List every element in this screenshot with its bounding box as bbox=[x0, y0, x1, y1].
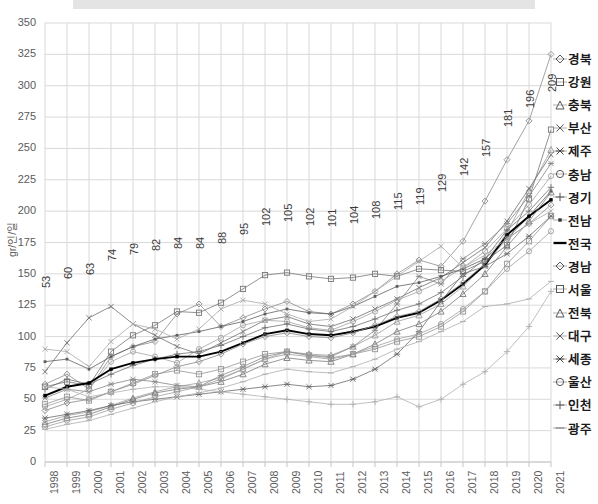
marker-plus bbox=[416, 301, 422, 307]
marker-dot bbox=[132, 345, 135, 348]
data-label: 79 bbox=[129, 243, 140, 255]
series-line bbox=[45, 291, 551, 406]
legend-item-경북[interactable]: 경북 bbox=[553, 47, 598, 70]
legend-label: 전국 bbox=[568, 234, 591, 253]
legend-label: 인천 bbox=[568, 395, 591, 414]
legend-label: 전북 bbox=[568, 303, 591, 322]
legend-item-전북[interactable]: 전북 bbox=[553, 301, 598, 324]
legend-label: 충남 bbox=[568, 165, 591, 184]
y-tick-label: 150 bbox=[10, 268, 36, 279]
data-label: 63 bbox=[85, 263, 96, 275]
y-tick-label: 250 bbox=[10, 142, 36, 153]
legend-label: 울산 bbox=[568, 372, 591, 391]
marker-plus bbox=[108, 371, 114, 377]
x-tick-label: 2011 bbox=[335, 471, 345, 494]
asterisk-icon bbox=[553, 352, 567, 366]
marker-emphasis-dot bbox=[131, 361, 134, 364]
series-전국 bbox=[43, 198, 552, 397]
data-label: 196 bbox=[525, 90, 536, 108]
diamond-icon bbox=[553, 259, 567, 273]
marker-dot bbox=[396, 285, 399, 288]
marker-dot bbox=[286, 308, 289, 311]
legend-item-충북[interactable]: 충북 bbox=[553, 93, 598, 116]
x-tick-label: 2012 bbox=[357, 471, 367, 494]
marker-plus bbox=[460, 381, 466, 387]
y-tick-label: 100 bbox=[10, 331, 36, 342]
data-label: 102 bbox=[261, 208, 272, 226]
series-line bbox=[45, 176, 551, 407]
legend-label: 대구 bbox=[568, 326, 591, 345]
plot-area bbox=[0, 0, 598, 504]
legend-item-대구[interactable]: 대구 bbox=[553, 324, 598, 347]
legend-item-전국[interactable]: 전국 bbox=[553, 232, 598, 255]
x-tick-label: 2006 bbox=[225, 471, 235, 494]
marker-dot bbox=[154, 338, 157, 341]
square-icon bbox=[553, 282, 567, 296]
data-label: 95 bbox=[239, 223, 250, 235]
series-세종 bbox=[42, 214, 554, 421]
legend-item-울산[interactable]: 울산 bbox=[553, 370, 598, 393]
y-tick-label: 25 bbox=[10, 425, 36, 436]
data-label: 157 bbox=[481, 139, 492, 157]
series-line bbox=[45, 192, 551, 424]
y-tick-label: 50 bbox=[10, 393, 36, 404]
cross-x-icon bbox=[553, 121, 567, 135]
data-label: 119 bbox=[415, 187, 426, 205]
legend-item-충남[interactable]: 충남 bbox=[553, 162, 598, 185]
x-tick-label: 2004 bbox=[181, 471, 191, 494]
marker-emphasis-dot bbox=[197, 355, 200, 358]
legend-label: 부산 bbox=[568, 118, 591, 137]
data-label: 142 bbox=[459, 158, 470, 176]
data-label: 104 bbox=[349, 205, 360, 223]
legend-item-서울[interactable]: 서울 bbox=[553, 278, 598, 301]
marker-dot bbox=[242, 320, 245, 323]
legend-item-광주[interactable]: 광주 bbox=[553, 417, 598, 440]
x-tick-label: 2000 bbox=[93, 471, 103, 494]
data-label: 82 bbox=[151, 239, 162, 251]
legend-label: 강원 bbox=[568, 72, 591, 91]
legend-item-경남[interactable]: 경남 bbox=[553, 255, 598, 278]
marker-dot bbox=[418, 281, 421, 284]
series-line bbox=[45, 205, 551, 411]
x-tick-label: 2015 bbox=[423, 471, 433, 494]
x-tick-label: 2009 bbox=[291, 471, 301, 494]
marker-plus bbox=[284, 396, 290, 402]
series-line bbox=[45, 211, 551, 367]
series-line bbox=[45, 150, 551, 422]
legend-item-전남[interactable]: 전남 bbox=[553, 209, 598, 232]
marker-plus bbox=[262, 325, 268, 331]
x-tick-label: 2018 bbox=[489, 471, 499, 494]
dot-dash-icon bbox=[553, 213, 567, 227]
triangle-icon bbox=[553, 306, 567, 320]
legend-item-경기[interactable]: 경기 bbox=[553, 186, 598, 209]
legend-item-강원[interactable]: 강원 bbox=[553, 70, 598, 93]
legend-label: 서울 bbox=[568, 280, 591, 299]
data-label: 84 bbox=[195, 236, 206, 248]
data-label: 74 bbox=[107, 249, 118, 261]
data-label: 84 bbox=[173, 236, 184, 248]
marker-plus bbox=[438, 396, 444, 402]
marker-emphasis-dot bbox=[87, 381, 90, 384]
legend-item-부산[interactable]: 부산 bbox=[553, 116, 598, 139]
marker-plus bbox=[438, 289, 444, 295]
x-tick-label: 2001 bbox=[115, 471, 125, 494]
legend-label: 광주 bbox=[568, 419, 591, 438]
x-tick-label: 2019 bbox=[511, 471, 521, 494]
circle-icon bbox=[553, 167, 567, 181]
marker-dot bbox=[484, 257, 487, 260]
x-tick-label: 1998 bbox=[49, 471, 59, 494]
legend-item-인천[interactable]: 인천 bbox=[553, 393, 598, 416]
legend-label: 전남 bbox=[568, 211, 591, 230]
legend-item-제주[interactable]: 제주 bbox=[553, 139, 598, 162]
legend-label: 제주 bbox=[568, 141, 591, 160]
series-충남 bbox=[42, 173, 553, 409]
x-tick-label: 2008 bbox=[269, 471, 279, 494]
series-line bbox=[45, 163, 551, 398]
x-tick-label: 2013 bbox=[379, 471, 389, 494]
x-tick-label: 2016 bbox=[445, 471, 455, 494]
y-tick-label: 0 bbox=[10, 456, 36, 467]
y-tick-label: 75 bbox=[10, 362, 36, 373]
legend-item-세종[interactable]: 세종 bbox=[553, 347, 598, 370]
x-tick-label: 2021 bbox=[555, 471, 565, 494]
marker-emphasis-dot bbox=[175, 355, 178, 358]
